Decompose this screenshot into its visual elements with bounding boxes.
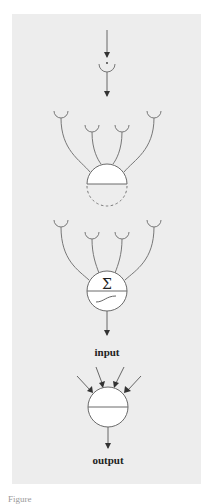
output-label: output [78, 454, 138, 466]
soma-dashed-half [87, 186, 127, 206]
output-arrow-icon [105, 443, 111, 449]
synapse-cup-icon [99, 64, 115, 72]
output-arrow-icon [104, 91, 110, 97]
figure-caption: Figure [8, 494, 32, 504]
synapse-stage [99, 30, 115, 97]
synapse-cup-icon [54, 111, 68, 118]
input-label: input [77, 346, 137, 358]
neurotransmitter-dot-icon [106, 62, 108, 64]
synapse-cup-icon [115, 232, 129, 239]
abstract-node-stage [77, 367, 141, 449]
dendrite-line [61, 118, 90, 172]
input-arrow-icon [113, 381, 119, 388]
synapse-cup-icon [54, 220, 68, 227]
dendrite-stage [54, 111, 161, 206]
output-arrow-icon [104, 330, 110, 336]
synapse-cup-icon [147, 220, 161, 227]
sum-symbol: Σ [102, 276, 112, 292]
synapse-cup-icon [85, 232, 99, 239]
input-arrow-icon [124, 386, 131, 393]
synapse-cup-icon [115, 125, 129, 132]
soma-half-icon [87, 164, 127, 184]
synapse-cup-icon [147, 111, 161, 118]
synapse-cup-icon [85, 125, 99, 132]
